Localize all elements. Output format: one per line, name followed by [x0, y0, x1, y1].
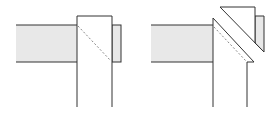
- left-figure: [16, 16, 121, 107]
- right-beam: [151, 25, 213, 62]
- left-tab: [112, 25, 121, 62]
- right-cap-tab: [255, 16, 264, 52]
- right-figure: [151, 7, 264, 107]
- left-post: [77, 16, 112, 107]
- diagram-canvas: [0, 0, 278, 114]
- left-beam: [16, 25, 77, 62]
